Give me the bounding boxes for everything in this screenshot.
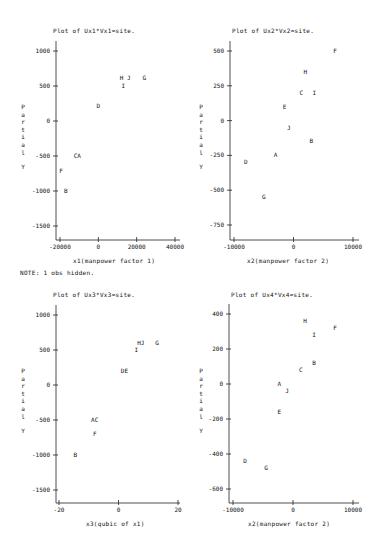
x-tick-label: 10000: [344, 506, 362, 513]
data-point-label: G: [264, 464, 268, 471]
data-point-label: F: [333, 324, 337, 331]
plot-area: 4002000-200-400-600-10000010000HFIBCAJED…: [0, 0, 377, 556]
data-point-label: A: [277, 380, 281, 387]
data-point-label: D: [243, 457, 247, 464]
y-tick-label: -400: [209, 450, 224, 457]
y-tick-label: 0: [219, 380, 223, 387]
data-point-label: E: [277, 408, 281, 415]
y-tick-label: 200: [212, 345, 223, 352]
data-point-label: B: [312, 359, 316, 366]
data-point-label: H: [303, 317, 307, 324]
x-tick-label: 0: [291, 506, 295, 513]
y-tick-label: -200: [209, 415, 224, 422]
data-point-label: C: [299, 366, 303, 373]
data-point-label: J: [285, 387, 289, 394]
hidden-obs-note: NOTE: 1 obs hidden.: [20, 269, 94, 276]
x-tick-label: -10000: [222, 506, 244, 513]
y-tick-label: -600: [209, 485, 224, 492]
data-point-label: I: [312, 331, 316, 338]
y-tick-label: 400: [212, 310, 223, 317]
